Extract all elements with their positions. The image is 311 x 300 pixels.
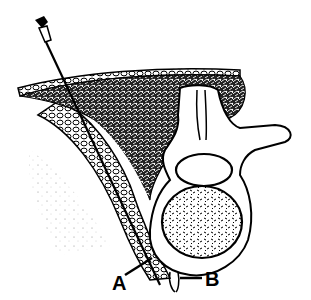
label-a: A bbox=[112, 273, 126, 293]
anatomical-illustration bbox=[0, 0, 311, 300]
label-b: B bbox=[205, 269, 219, 289]
spinal-canal bbox=[176, 154, 232, 186]
vertebral-body bbox=[162, 186, 242, 258]
